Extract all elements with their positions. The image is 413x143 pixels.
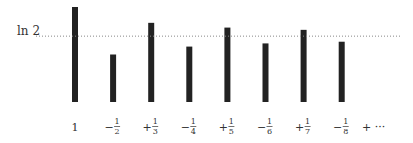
ln2-label: ln 2 bbox=[17, 24, 40, 38]
x-tick-label-1: 1 bbox=[72, 121, 79, 134]
tick-denominator: 5 bbox=[229, 127, 234, 136]
trailing-ellipsis-label: + ··· bbox=[362, 121, 385, 134]
tick-sign: + bbox=[143, 121, 152, 134]
tick-sign: + bbox=[219, 121, 228, 134]
x-tick-label-8: −18 bbox=[333, 117, 349, 136]
x-tick-label-4: −14 bbox=[181, 117, 197, 136]
tick-numerator: 1 bbox=[191, 117, 196, 126]
tick-denominator: 8 bbox=[343, 127, 348, 136]
tick-sign: + bbox=[295, 121, 304, 134]
x-tick-label-5: +15 bbox=[219, 117, 235, 136]
tick-numerator: 1 bbox=[153, 117, 158, 126]
bar-5 bbox=[224, 28, 230, 102]
partial-sums-chart: ln 2 1−12+13−14+15−16+17−18+ ··· bbox=[0, 0, 413, 143]
x-tick-label-2: −12 bbox=[104, 117, 120, 136]
tick-numerator: 1 bbox=[115, 117, 120, 126]
bar-8 bbox=[339, 42, 345, 102]
bar-7 bbox=[301, 30, 307, 102]
bar-3 bbox=[148, 23, 154, 102]
bar-6 bbox=[263, 43, 269, 102]
x-tick-label-7: +17 bbox=[295, 117, 311, 136]
tick-text: 1 bbox=[72, 121, 79, 134]
tick-numerator: 1 bbox=[343, 117, 348, 126]
tick-numerator: 1 bbox=[229, 117, 234, 126]
x-tick-label-6: −16 bbox=[257, 117, 273, 136]
x-tick-label-3: +13 bbox=[143, 117, 159, 136]
tick-sign: − bbox=[333, 121, 342, 134]
bar-4 bbox=[186, 47, 192, 102]
tick-denominator: 3 bbox=[153, 127, 158, 136]
tick-numerator: 1 bbox=[305, 117, 310, 126]
tick-denominator: 4 bbox=[191, 127, 196, 136]
bar-1 bbox=[72, 7, 78, 102]
tick-numerator: 1 bbox=[267, 117, 272, 126]
tick-sign: − bbox=[257, 121, 266, 134]
tick-denominator: 6 bbox=[267, 127, 272, 136]
tick-denominator: 2 bbox=[115, 127, 120, 136]
bar-2 bbox=[110, 55, 116, 103]
tick-denominator: 7 bbox=[305, 127, 310, 136]
tick-sign: − bbox=[181, 121, 190, 134]
tick-sign: − bbox=[104, 121, 113, 134]
